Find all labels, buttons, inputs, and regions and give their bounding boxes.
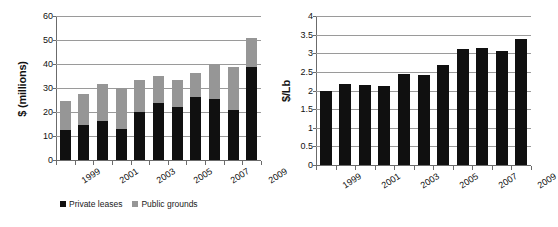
- x-axis-line: [316, 165, 531, 166]
- y-tick-label: 10: [43, 132, 53, 141]
- legend-label: Private leases: [69, 199, 122, 209]
- bar-segment-public-grounds: [97, 84, 108, 122]
- x-tick-mark: [414, 166, 415, 170]
- x-tick-mark: [472, 166, 473, 170]
- gridline: [316, 16, 531, 17]
- chart-panel-revenue: $ (millions) 0102030405060 1999200120032…: [0, 0, 276, 227]
- x-tick-label: 2003: [155, 167, 177, 185]
- bar-segment-price: [418, 75, 430, 165]
- x-tick-mark: [394, 166, 395, 170]
- bar: [60, 101, 71, 160]
- plot-area-price: 00.511.522.533.54: [316, 16, 531, 166]
- bar-segment-private-leases: [246, 67, 257, 160]
- x-axis-line: [56, 160, 261, 161]
- x-tick-mark: [355, 166, 356, 170]
- y-tick-mark: [53, 88, 56, 89]
- x-tick-label: 2001: [118, 167, 140, 185]
- x-tick-mark: [205, 161, 206, 165]
- bar-segment-public-grounds: [246, 38, 257, 67]
- bar: [320, 91, 332, 166]
- y-tick-label: 3.5: [300, 30, 313, 39]
- y-tick-mark: [313, 53, 316, 54]
- y-tick-label: 30: [43, 84, 53, 93]
- y-tick-mark: [53, 136, 56, 137]
- gridline: [56, 40, 261, 41]
- bar-segment-price: [476, 48, 488, 165]
- bar: [78, 94, 89, 160]
- bar: [246, 38, 257, 160]
- bar-segment-private-leases: [116, 129, 127, 160]
- bar-segment-private-leases: [97, 121, 108, 160]
- x-tick-mark: [186, 161, 187, 165]
- y-tick-mark: [313, 128, 316, 129]
- y-tick-mark: [313, 72, 316, 73]
- bar-segment-private-leases: [134, 112, 145, 160]
- y-tick-mark: [53, 112, 56, 113]
- y-tick-mark: [53, 40, 56, 41]
- bar-segment-public-grounds: [116, 88, 127, 129]
- bar: [153, 76, 164, 160]
- x-tick-label: 2007: [497, 172, 519, 190]
- bar: [437, 65, 449, 165]
- y-tick-mark: [313, 109, 316, 110]
- bar-segment-private-leases: [78, 125, 89, 160]
- bar-segment-public-grounds: [60, 101, 71, 129]
- y-tick-label: 20: [43, 108, 53, 117]
- bar: [172, 80, 183, 160]
- bar: [378, 86, 390, 165]
- legend-swatch-icon: [132, 201, 138, 207]
- chart-panel-price: $/Lb 00.511.522.533.54 19992001200320052…: [276, 0, 552, 227]
- legend-item: Private leases: [60, 199, 122, 209]
- legend-swatch-icon: [60, 201, 66, 207]
- bar-segment-private-leases: [60, 130, 71, 160]
- gridline: [56, 64, 261, 65]
- bar: [116, 88, 127, 160]
- bar-segment-price: [496, 51, 508, 165]
- x-tick-mark: [93, 161, 94, 165]
- bar: [457, 49, 469, 165]
- x-tick-label: 2005: [192, 167, 214, 185]
- bar-segment-public-grounds: [172, 80, 183, 107]
- bar: [97, 84, 108, 160]
- x-tick-label: 2001: [380, 172, 402, 190]
- gridline: [56, 16, 261, 17]
- y-tick-label: 0.5: [300, 142, 313, 151]
- x-tick-mark: [375, 166, 376, 170]
- legend-label: Public grounds: [141, 199, 197, 209]
- y-tick-label: 40: [43, 60, 53, 69]
- bar-segment-public-grounds: [228, 67, 239, 110]
- bar: [515, 39, 527, 165]
- x-tick-mark: [149, 161, 150, 165]
- x-tick-label: 2003: [419, 172, 441, 190]
- chart-legend: Private leasesPublic grounds: [60, 199, 198, 209]
- bar: [418, 75, 430, 165]
- bar: [359, 85, 371, 165]
- bar-segment-private-leases: [209, 99, 220, 160]
- legend-item: Public grounds: [132, 199, 197, 209]
- bar-segment-price: [378, 86, 390, 165]
- x-tick-label: 2005: [458, 172, 480, 190]
- x-tick-mark: [336, 166, 337, 170]
- y-tick-mark: [53, 16, 56, 17]
- y-tick-mark: [313, 16, 316, 17]
- x-tick-mark: [242, 161, 243, 165]
- y-tick-label: 0: [48, 156, 53, 165]
- y-tick-mark: [313, 35, 316, 36]
- bar-segment-public-grounds: [134, 80, 145, 112]
- x-tick-mark: [112, 161, 113, 165]
- y-axis-title-right: $/Lb: [280, 80, 292, 102]
- bar: [209, 64, 220, 160]
- x-tick-mark: [56, 161, 57, 165]
- y-tick-label: 1: [308, 123, 313, 132]
- x-tick-mark: [131, 161, 132, 165]
- y-tick-label: 2: [308, 86, 313, 95]
- x-tick-label: 2007: [230, 167, 252, 185]
- x-tick-mark: [261, 161, 262, 165]
- bar-segment-price: [515, 39, 527, 165]
- y-tick-label: 0: [308, 161, 313, 170]
- bar: [398, 74, 410, 165]
- bar-segment-public-grounds: [78, 94, 89, 125]
- y-tick-mark: [53, 64, 56, 65]
- bar-segment-private-leases: [153, 103, 164, 160]
- bar-segment-private-leases: [228, 110, 239, 160]
